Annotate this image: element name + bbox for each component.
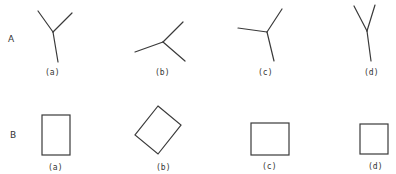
fig-label-a-a: (a) (45, 68, 59, 77)
fig-label-b-c: (c) (262, 162, 276, 171)
junction-a-d (354, 5, 375, 61)
rect-b-c (251, 123, 289, 155)
diagram-canvas: A (a) (b) (c) (d) B (a) (b) (c) (d) (0, 0, 396, 174)
rect-b-d (360, 124, 388, 154)
row-label-a: A (8, 34, 15, 44)
fig-label-b-d: (d) (368, 162, 382, 171)
rect-b-a (42, 115, 70, 155)
fig-label-b-b: (b) (156, 163, 170, 172)
row-label-b: B (10, 130, 16, 140)
rect-b-b (135, 106, 181, 154)
junction-a-c (238, 9, 282, 61)
fig-label-b-a: (a) (48, 163, 62, 172)
fig-label-a-c: (c) (258, 68, 272, 77)
fig-label-a-b: (b) (155, 68, 169, 77)
fig-label-a-d: (d) (364, 68, 378, 77)
junction-a-a (38, 11, 72, 62)
junction-a-b (135, 22, 185, 61)
